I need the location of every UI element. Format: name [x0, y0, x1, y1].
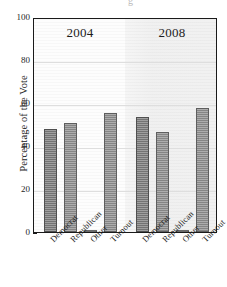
bar-2004-turnout — [104, 113, 117, 232]
y-tick-label-80: 80 — [15, 55, 30, 65]
y-tick-label-0: 0 — [15, 227, 30, 237]
y-tick-label-20: 20 — [15, 184, 30, 194]
y-tick-label-100: 100 — [15, 12, 30, 22]
plot-panel: 2004 2008 — [33, 18, 217, 233]
y-tick-label-40: 40 — [15, 141, 30, 151]
group-label-2004: 2004 — [34, 25, 126, 41]
y-tick-label-60: 60 — [15, 98, 30, 108]
gridline-60 — [34, 105, 216, 106]
y-tick-mark-0 — [33, 233, 37, 234]
gridline-40 — [34, 148, 216, 149]
bar-2008-turnout — [196, 108, 209, 232]
bar-2008-democrat — [136, 117, 149, 232]
gridline-20 — [34, 191, 216, 192]
cropped-glyph-artifact: g — [128, 0, 133, 6]
group-label-2008: 2008 — [126, 25, 217, 41]
gridline-80 — [34, 62, 216, 63]
bar-2004-democrat — [44, 129, 57, 232]
bar-chart-figure: g Percentage of the Vote 020406080100 20… — [0, 0, 227, 287]
